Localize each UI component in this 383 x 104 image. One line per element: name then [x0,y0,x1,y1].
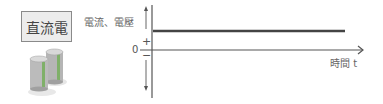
negative-sign: − [142,49,151,62]
positive-sign: + [142,35,151,48]
origin-label: 0 [132,44,138,55]
y-axis-label: 電流、電壓 [84,14,134,29]
dc-graph [0,0,383,104]
battery-pair-icon [28,49,67,96]
x-axis-label: 時間 t [330,55,357,70]
